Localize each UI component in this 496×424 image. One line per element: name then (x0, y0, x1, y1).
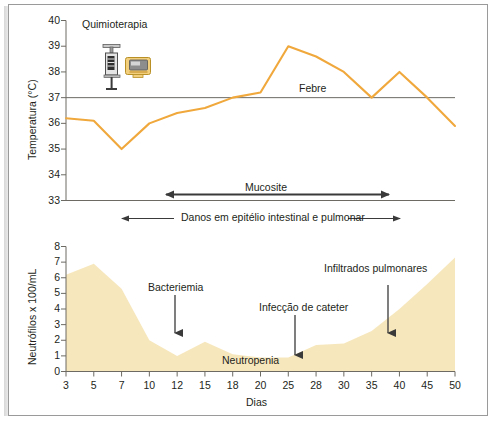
days-tick-7: 7 (111, 379, 133, 391)
temperature-y-ticks (61, 21, 66, 201)
days-tick-20: 20 (250, 379, 272, 391)
syringe-icon (103, 45, 120, 91)
neutrophil-tick-8: 8 (44, 240, 60, 252)
neutrophil-tick-7: 7 (44, 255, 60, 267)
temperature-tick-40: 40 (40, 14, 60, 26)
chemotherapy-icon-group (103, 45, 151, 91)
days-tick-10: 10 (138, 379, 160, 391)
neutrophil-tick-3: 3 (44, 318, 60, 330)
days-tick-15: 15 (194, 379, 216, 391)
temperature-tick-35: 35 (40, 142, 60, 154)
days-tick-35: 35 (361, 379, 383, 391)
neutrophil-tick-1: 1 (44, 349, 60, 361)
temperature-axis-title: Temperatura (°C) (26, 79, 38, 160)
temperature-tick-36: 36 (40, 116, 60, 128)
days-tick-3: 3 (55, 379, 77, 391)
temperature-tick-39: 39 (40, 39, 60, 51)
neutrophil-tick-4: 4 (44, 302, 60, 314)
days-tick-40: 40 (388, 379, 410, 391)
days-tick-18: 18 (222, 379, 244, 391)
chemotherapy-label: Quimioterapia (82, 18, 147, 30)
neutrophil-y-ticks (61, 247, 66, 372)
temperature-tick-37: 37 (40, 91, 60, 103)
days-tick-5: 5 (83, 379, 105, 391)
days-tick-28: 28 (305, 379, 327, 391)
epithelial-damage-label: Danos em epitélio intestinal e pulmonar (181, 211, 365, 223)
pulmonary-infiltrates-label: Infiltrados pulmonares (324, 262, 427, 274)
mucositis-label: Mucosite (245, 181, 287, 193)
neutrophil-tick-2: 2 (44, 333, 60, 345)
days-axis-title: Dias (246, 396, 267, 408)
temperature-tick-34: 34 (40, 168, 60, 180)
fever-label: Febre (299, 82, 326, 94)
days-tick-50: 50 (444, 379, 466, 391)
iv-pump-icon (126, 58, 151, 78)
days-tick-30: 30 (333, 379, 355, 391)
neutrophil-axis-title: Neutrófilos x 100/mL (26, 269, 38, 365)
days-tick-12: 12 (166, 379, 188, 391)
neutropenia-label: Neutropenia (222, 354, 279, 366)
neutrophil-tick-5: 5 (44, 286, 60, 298)
temperature-tick-38: 38 (40, 65, 60, 77)
clinical-course-figure: 3334353637383940 012345678 3571012151820… (0, 0, 496, 424)
neutrophil-x-ticks (66, 372, 455, 377)
bacteremia-label: Bacteriemia (148, 281, 203, 293)
neutrophil-tick-0: 0 (44, 365, 60, 377)
days-tick-25: 25 (277, 379, 299, 391)
neutrophil-tick-6: 6 (44, 271, 60, 283)
days-tick-45: 45 (416, 379, 438, 391)
temperature-tick-33: 33 (40, 194, 60, 206)
catheter-infection-label: Infecção de cateter (259, 301, 348, 313)
